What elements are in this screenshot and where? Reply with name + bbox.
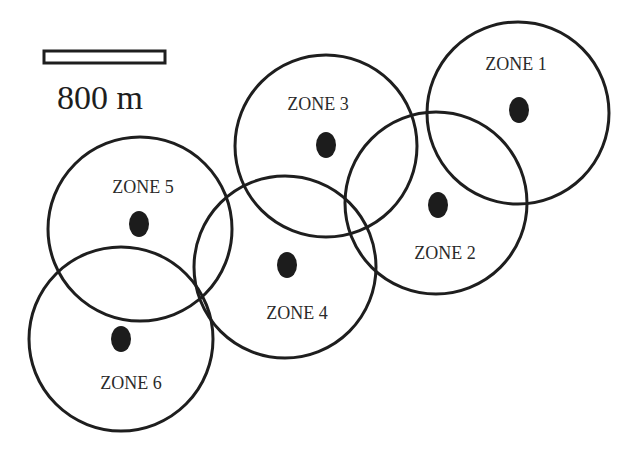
- zone-3-center-marker: [316, 132, 336, 158]
- zone-6-center-marker: [111, 326, 131, 352]
- zone-4-center-marker: [277, 252, 297, 278]
- zone-3-label: ZONE 3: [287, 94, 349, 114]
- zone-5-label: ZONE 5: [112, 177, 174, 197]
- zone-1-center-marker: [509, 97, 529, 123]
- scale-bar-group: 800 m: [44, 51, 165, 116]
- zone-2-label: ZONE 2: [414, 243, 476, 263]
- zone-1-label: ZONE 1: [485, 54, 547, 74]
- zone-6-label: ZONE 6: [100, 373, 162, 393]
- zone-map-diagram: 800 m ZONE 1ZONE 2ZONE 3ZONE 4ZONE 5ZONE…: [0, 0, 631, 451]
- scale-label: 800 m: [57, 79, 143, 116]
- scale-bar: [44, 51, 165, 63]
- zone-2-center-marker: [428, 192, 448, 218]
- zone-5-center-marker: [129, 211, 149, 237]
- zone-4-label: ZONE 4: [266, 303, 328, 323]
